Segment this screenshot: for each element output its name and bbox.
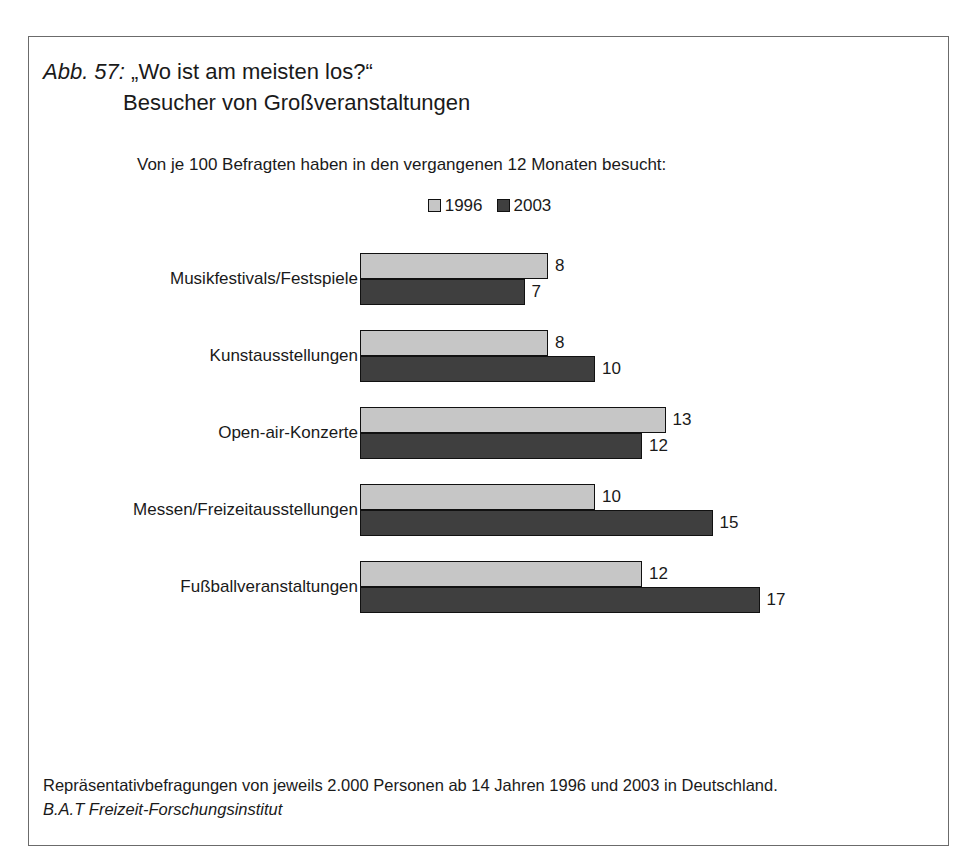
bar-value-label: 8: [555, 333, 564, 353]
bar-2003[interactable]: [360, 356, 595, 382]
bar-value-label: 10: [602, 359, 621, 379]
bar-1996[interactable]: [360, 330, 548, 356]
legend-label-2003: 2003: [514, 197, 552, 214]
legend-swatch-1996: [428, 199, 441, 212]
category-label: Messen/Freizeitausstellungen: [133, 500, 358, 520]
bar-group: Musikfestivals/Festspiele87: [29, 253, 950, 309]
bar-1996[interactable]: [360, 253, 548, 279]
category-label: Kunstausstellungen: [210, 346, 358, 366]
figure-page: Abb. 57: „Wo ist am meisten los?“ Besuch…: [0, 0, 965, 857]
bar-value-label: 10: [602, 487, 621, 507]
bar-value-label: 7: [532, 282, 541, 302]
figure-subtitle: Von je 100 Befragten haben in den vergan…: [137, 155, 666, 175]
bar-value-label: 17: [767, 590, 786, 610]
bar-group: Fußballveranstaltungen1217: [29, 561, 950, 617]
legend-item-1996: 1996: [428, 197, 483, 214]
title-line-1: Abb. 57: „Wo ist am meisten los?“: [43, 57, 923, 87]
bar-group: Messen/Freizeitausstellungen1015: [29, 484, 950, 540]
legend-label-1996: 1996: [445, 197, 483, 214]
bar-1996[interactable]: [360, 561, 642, 587]
bar-2003[interactable]: [360, 587, 760, 613]
figure-frame: Abb. 57: „Wo ist am meisten los?“ Besuch…: [28, 36, 949, 846]
bar-group: Kunstausstellungen810: [29, 330, 950, 386]
footer-source-line: Repräsentativbefragungen von jeweils 2.0…: [43, 773, 933, 797]
figure-title-line-2: Besucher von Großveranstaltungen: [43, 87, 923, 119]
figure-title-quoted: „Wo ist am meisten los?“: [131, 59, 373, 84]
category-label: Open-air-Konzerte: [218, 423, 358, 443]
title-block: Abb. 57: „Wo ist am meisten los?“ Besuch…: [43, 57, 923, 119]
footer-institute-line: B.A.T Freizeit-Forschungsinstitut: [43, 797, 933, 821]
bar-2003[interactable]: [360, 279, 525, 305]
bar-value-label: 12: [649, 436, 668, 456]
figure-number: Abb. 57:: [43, 59, 125, 84]
bar-2003[interactable]: [360, 510, 713, 536]
bar-1996[interactable]: [360, 484, 595, 510]
category-label: Musikfestivals/Festspiele: [170, 269, 358, 289]
bar-group: Open-air-Konzerte1312: [29, 407, 950, 463]
chart-plot-area: Musikfestivals/Festspiele87Kunstausstell…: [29, 243, 950, 673]
legend-item-2003: 2003: [497, 197, 552, 214]
bar-value-label: 8: [555, 256, 564, 276]
bar-2003[interactable]: [360, 433, 642, 459]
chart-footer: Repräsentativbefragungen von jeweils 2.0…: [43, 773, 933, 821]
legend-swatch-2003: [497, 199, 510, 212]
bar-value-label: 15: [720, 513, 739, 533]
bar-value-label: 12: [649, 564, 668, 584]
bar-1996[interactable]: [360, 407, 666, 433]
category-label: Fußballveranstaltungen: [180, 577, 358, 597]
bar-value-label: 13: [673, 410, 692, 430]
chart-legend: 1996 2003: [29, 197, 950, 214]
